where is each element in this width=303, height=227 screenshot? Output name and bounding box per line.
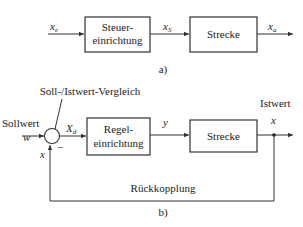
controller-label-1: Regel- [104,123,134,135]
actual-value-label: Istwert [260,97,291,109]
input-signal-label: xe [49,20,58,34]
diagram-a-open-loop: xe Steuer- einrichtung xS Strecke xa a) [48,17,293,76]
feedback-symbol: x [39,148,45,160]
setpoint-label: Sollwert [2,117,39,129]
diagram-b-closed-loop: Soll-/Istwert-Vergleich Sollwert w − Xd … [2,85,293,219]
comparator-caption: Soll-/Istwert-Vergleich [40,85,141,97]
error-signal-label: Xd [65,122,77,136]
minus-sign: − [57,141,63,153]
setpoint-symbol: w [23,131,31,143]
output-signal-label: xa [267,20,277,34]
control-diagrams: xe Steuer- einrichtung xS Strecke xa a) … [0,0,303,227]
control-device-label-2: einrichtung [92,34,143,46]
plant-label-b: Strecke [207,130,240,142]
controller-label-2: einrichtung [93,137,144,149]
caption-a: a) [159,63,168,76]
control-signal-label: xS [162,20,172,34]
caption-b: b) [158,206,168,219]
manipulated-variable-label: y [162,116,168,128]
plant-label-a: Strecke [207,28,240,40]
control-device-label-1: Steuer- [102,21,134,33]
comparator-leader-line [55,99,62,129]
actual-value-symbol: x [270,114,276,126]
feedback-label: Rückkopplung [131,182,196,194]
